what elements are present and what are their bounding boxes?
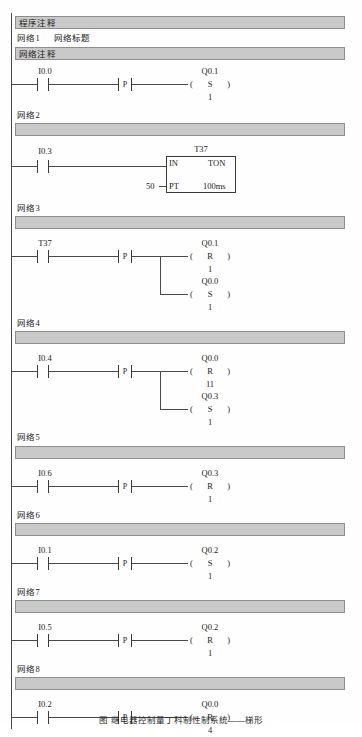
network-heading-5[interactable]: 网络5 [17, 432, 40, 443]
wire [12, 371, 37, 372]
network-banner-8[interactable] [15, 677, 345, 690]
contact-operand-1: I0.0 [28, 66, 62, 76]
positive-transition-contact[interactable]: P [118, 250, 132, 263]
network-banner-3[interactable] [15, 216, 345, 229]
coil-count-3b: 1 [188, 302, 232, 312]
rung-7: I0.5 P Q0.2 ( R ) 1 [0, 616, 362, 660]
contact-operand-2: I0.3 [28, 146, 62, 156]
contact-normally-open[interactable] [37, 250, 49, 263]
contact-normally-open[interactable] [37, 634, 49, 647]
set-coil[interactable]: ( S ) [188, 403, 232, 416]
network-label-3: 网络3 [17, 203, 40, 213]
positive-transition-contact[interactable]: P [118, 557, 132, 570]
positive-transition-contact[interactable]: P [118, 480, 132, 493]
wire [49, 256, 118, 257]
rung-6: I0.1 P Q0.2 ( S ) 1 [0, 539, 362, 583]
network-heading-3[interactable]: 网络3 [17, 203, 40, 214]
wire [49, 640, 118, 641]
reset-coil[interactable]: ( R ) [188, 365, 232, 378]
reset-coil[interactable]: ( R ) [188, 634, 232, 647]
program-comment-label: 程序注释 [19, 17, 56, 29]
network-banner-2[interactable] [15, 123, 345, 136]
contact-operand-4: I0.4 [28, 353, 62, 363]
coil-count-5: 1 [188, 494, 232, 504]
rung-2: I0.3 T37 IN TON PT 100ms 50 [0, 142, 362, 200]
network-label-2: 网络2 [17, 110, 40, 120]
coil-operand-6: Q0.2 [188, 545, 232, 555]
reset-coil[interactable]: ( R ) [188, 250, 232, 263]
coil-type-label: S [188, 557, 232, 570]
reset-coil[interactable]: ( R ) [188, 480, 232, 493]
network-banner-4[interactable] [15, 331, 345, 344]
network-comment-banner[interactable]: 网络注释 [15, 47, 345, 60]
wire [12, 84, 37, 85]
network-heading-7[interactable]: 网络7 [17, 587, 40, 598]
branch-wire [160, 409, 188, 410]
wire [49, 84, 118, 85]
rung-4: I0.4 P Q0.0 ( R ) 11 Q0.3 ( S ) 1 [0, 347, 362, 429]
coil-type-label: R [188, 480, 232, 493]
coil-paren-right: ) [227, 557, 230, 570]
network-banner-5[interactable] [15, 446, 345, 459]
wire [49, 563, 118, 564]
figure-caption: 图 继电器控制量丁科制性制系统——梯形 [0, 714, 362, 726]
coil-operand-1: Q0.1 [188, 66, 232, 76]
timer-preset-value: 50 [146, 181, 155, 191]
positive-transition-contact[interactable]: P [118, 365, 132, 378]
coil-paren-right: ) [227, 480, 230, 493]
contact-operand-5: I0.6 [28, 468, 62, 478]
contact-normally-open[interactable] [37, 160, 49, 173]
coil-operand-8: Q0.0 [188, 699, 232, 709]
coil-type-label: S [188, 78, 232, 91]
set-coil[interactable]: ( S ) [188, 557, 232, 570]
p-contact-label: P [118, 634, 132, 647]
positive-transition-contact[interactable]: P [118, 78, 132, 91]
network-banner-7[interactable] [15, 600, 345, 613]
network-heading-6[interactable]: 网络6 [17, 510, 40, 521]
coil-count-6: 1 [188, 571, 232, 581]
wire [132, 640, 188, 641]
coil-operand-7: Q0.2 [188, 622, 232, 632]
coil-paren-right: ) [227, 78, 230, 91]
wire [132, 563, 188, 564]
contact-normally-open[interactable] [37, 480, 49, 493]
coil-type-label: R [188, 365, 232, 378]
set-coil[interactable]: ( S ) [188, 78, 232, 91]
coil-operand-5: Q0.3 [188, 468, 232, 478]
coil-paren-right: ) [227, 365, 230, 378]
positive-transition-contact[interactable]: P [118, 634, 132, 647]
network-heading-1[interactable]: 网络1网络标题 [17, 33, 91, 44]
coil-operand-4a: Q0.0 [188, 353, 232, 363]
coil-count-7: 1 [188, 648, 232, 658]
network-label-5: 网络5 [17, 432, 40, 442]
coil-type-label: R [188, 250, 232, 263]
p-contact-label: P [118, 480, 132, 493]
coil-count-1: 1 [188, 92, 232, 102]
network-heading-8[interactable]: 网络8 [17, 664, 40, 675]
rung-3: T37 P Q0.1 ( R ) 1 Q0.0 ( S ) 1 [0, 232, 362, 314]
wire [12, 486, 37, 487]
wire [132, 486, 188, 487]
timer-in-label: IN [169, 158, 178, 168]
contact-normally-open[interactable] [37, 78, 49, 91]
program-comment-banner[interactable]: 程序注释 [15, 16, 345, 29]
p-contact-label: P [118, 250, 132, 263]
wire [12, 563, 37, 564]
coil-operand-3b: Q0.0 [188, 276, 232, 286]
rung-1: I0.0 P Q0.1 ( S ) 1 [0, 62, 362, 106]
network-heading-4[interactable]: 网络4 [17, 318, 40, 329]
contact-normally-open[interactable] [37, 365, 49, 378]
network-heading-2[interactable]: 网络2 [17, 110, 40, 121]
coil-paren-right: ) [227, 250, 230, 263]
timer-timebase-label: 100ms [203, 181, 226, 191]
wire [12, 640, 37, 641]
set-coil[interactable]: ( S ) [188, 288, 232, 301]
network-label-7: 网络7 [17, 587, 40, 597]
coil-count-4a: 11 [188, 379, 232, 389]
network-label-1: 网络1 [17, 33, 40, 43]
coil-paren-right: ) [227, 634, 230, 647]
network-banner-6[interactable] [15, 523, 345, 536]
wire [132, 84, 188, 85]
contact-normally-open[interactable] [37, 557, 49, 570]
contact-operand-6: I0.1 [28, 545, 62, 555]
